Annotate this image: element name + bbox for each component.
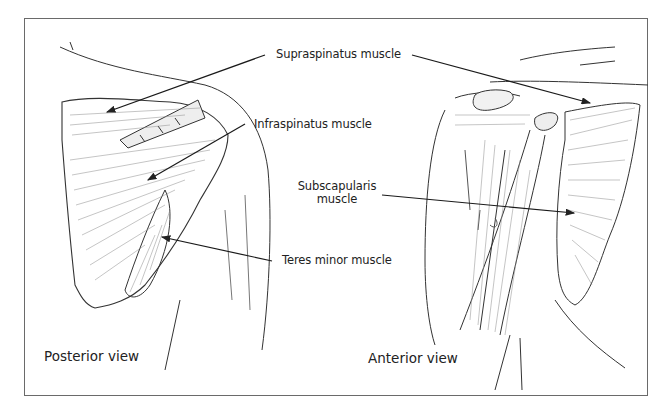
teres-minor-leader <box>162 237 272 261</box>
label-infraspinatus: Infraspinatus muscle <box>254 118 372 131</box>
view-label-anterior: Anterior view <box>368 350 458 366</box>
supraspinatus-leader-left <box>107 55 265 112</box>
subscapularis-leader <box>382 195 574 213</box>
leader-lines <box>107 55 590 261</box>
anterior-view-drawing <box>425 47 648 390</box>
label-teres-minor: Teres minor muscle <box>282 254 392 267</box>
label-subscapularis-line2: muscle <box>297 193 377 206</box>
label-subscapularis: Subscapularis muscle <box>297 180 377 206</box>
view-label-posterior: Posterior view <box>44 348 139 364</box>
label-supraspinatus: Supraspinatus muscle <box>276 48 401 61</box>
